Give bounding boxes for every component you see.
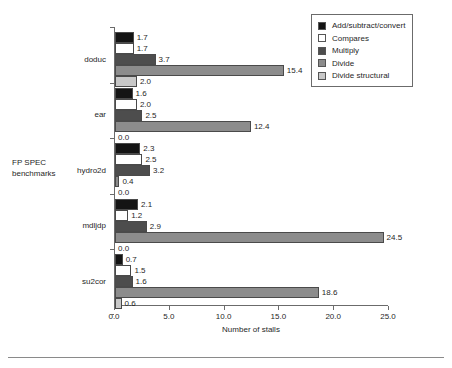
bar-value-label: 0.7 [126, 254, 137, 265]
bar-value-label: 2.5 [145, 110, 156, 121]
bar-value-label: 1.6 [136, 88, 147, 99]
bar [115, 110, 142, 121]
y-axis-tick [110, 249, 114, 250]
bar [115, 265, 131, 276]
bar [115, 221, 147, 232]
bar-value-label: 3.2 [153, 165, 164, 176]
bar [115, 88, 133, 99]
x-axis-tick-label: 15.0 [271, 312, 287, 322]
x-axis-tick [333, 306, 334, 310]
bar [115, 165, 150, 176]
bar [115, 176, 119, 187]
plot-area: 0.05.010.015.020.025.0doduc1.71.73.715.4… [114, 27, 388, 305]
y-axis-tick [110, 138, 114, 139]
bar-value-label: 2.0 [140, 99, 151, 110]
bar-value-label: 2.1 [141, 199, 152, 210]
x-axis-tick [169, 306, 170, 310]
x-axis-tick [278, 306, 279, 310]
bar-value-label: 12.4 [254, 121, 270, 132]
bar-value-label: 0.0 [118, 243, 129, 254]
y-axis-tick [110, 194, 114, 195]
x-axis-tick [224, 306, 225, 310]
bar [115, 121, 251, 132]
x-axis-tick-label: 20.0 [325, 312, 341, 322]
bar [115, 65, 284, 76]
bar-value-label: 1.7 [137, 43, 148, 54]
bar [115, 143, 140, 154]
bar [115, 254, 123, 265]
bar-value-label: 0.4 [122, 176, 133, 187]
y-axis-title: FP SPEC benchmarks [12, 157, 74, 179]
bar [115, 298, 122, 309]
category-label-doduc: doduc [6, 55, 106, 65]
x-axis-tick [388, 306, 389, 310]
y-axis-title-line1: FP SPEC [12, 157, 74, 168]
x-axis-title: Number of stalls [114, 324, 388, 335]
bar-value-label: 15.4 [287, 65, 303, 76]
bar [115, 76, 137, 87]
bar-value-label: 1.7 [137, 32, 148, 43]
bar [115, 154, 142, 165]
bar [115, 99, 137, 110]
bar-value-label: 0.0 [118, 132, 129, 143]
bar-value-label: 3.7 [159, 54, 170, 65]
bar [115, 199, 138, 210]
x-axis-tick-label: 5.0 [163, 312, 174, 322]
bar-value-label: 2.9 [150, 221, 161, 232]
y-axis-tick [110, 83, 114, 84]
bar [115, 232, 384, 243]
bar-value-label: 1.6 [136, 276, 147, 287]
bar [115, 210, 128, 221]
bar-value-label: 1.2 [131, 210, 142, 221]
bar-value-label: 0.0 [118, 187, 129, 198]
bar-value-label: 2.0 [140, 76, 151, 87]
y-axis-tick [110, 27, 114, 28]
bar [115, 43, 134, 54]
y-axis-title-line2: benchmarks [12, 168, 74, 179]
bar [115, 276, 133, 287]
category-label-mdljdp: mdljdp [6, 221, 106, 231]
figure-bar-chart: Add/subtract/convertComparesMultiplyDivi… [0, 0, 452, 368]
bar-value-label: 0.6 [125, 298, 136, 309]
x-axis-tick-label: 25.0 [380, 312, 396, 322]
bar [115, 54, 156, 65]
bar-value-label: 2.3 [143, 143, 154, 154]
bar [115, 32, 134, 43]
bar-value-label: 24.5 [387, 232, 403, 243]
bar [115, 287, 319, 298]
bar-value-label: 1.5 [134, 265, 145, 276]
bar-value-label: 18.6 [322, 287, 338, 298]
x-axis-tick-label: 10.0 [216, 312, 232, 322]
bar-value-label: 2.5 [145, 154, 156, 165]
y-axis-tick [110, 314, 114, 315]
category-label-ear: ear [6, 110, 106, 120]
category-label-su2cor: su2cor [6, 277, 106, 287]
bottom-divider [8, 357, 444, 358]
x-axis-line [114, 305, 388, 306]
